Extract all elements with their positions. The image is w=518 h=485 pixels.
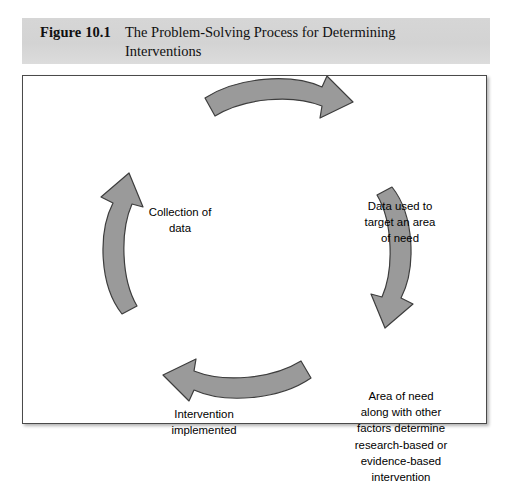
node-label-intervention-implemented: Intervention implemented	[139, 406, 269, 438]
node-label-collection-of-data: Collection of data	[115, 204, 245, 236]
figure-title-text: The Problem-Solving Process for Determin…	[125, 23, 445, 61]
node-label-area-of-need-factors: Area of need along with other factors de…	[331, 388, 471, 485]
figure-caption-band: Figure 10.1 The Problem-Solving Process …	[22, 18, 490, 64]
figure-number-label: Figure 10.1	[40, 23, 125, 42]
figure-caption: Figure 10.1 The Problem-Solving Process …	[40, 23, 480, 61]
figure-panel: Collection of data Data used to target a…	[22, 75, 487, 424]
arrow-bottom-icon	[163, 359, 311, 401]
arrow-left-icon	[101, 173, 143, 314]
node-label-data-used-to-target: Data used to target an area of need	[335, 198, 465, 247]
arrow-top-icon	[205, 76, 353, 118]
cycle-diagram	[23, 76, 488, 425]
